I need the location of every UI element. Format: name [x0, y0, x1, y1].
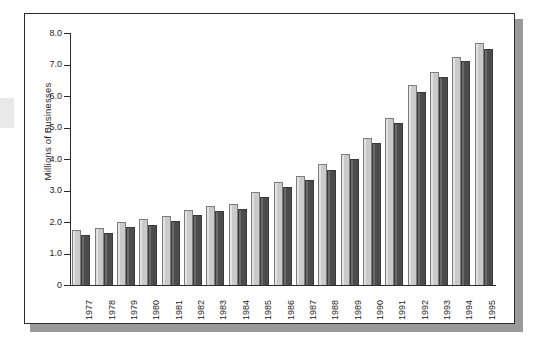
bar-1991-series-1 — [385, 118, 394, 285]
bar-1982-series-2 — [193, 215, 202, 285]
bar-group — [95, 33, 113, 285]
bar-group — [341, 33, 359, 285]
x-axis-tick-label-1980: 1980 — [152, 300, 161, 320]
bar-group — [251, 33, 269, 285]
left-edge-artifact — [0, 98, 14, 128]
bar-1991-series-2 — [394, 123, 403, 285]
y-axis-tick-label: 8.0 — [26, 29, 62, 38]
x-axis-line — [70, 285, 496, 286]
y-axis-tick-label: 1.0 — [26, 249, 62, 258]
bar-group — [475, 33, 493, 285]
x-axis-tick-label-1989: 1989 — [354, 300, 363, 320]
x-axis-tick-label-1985: 1985 — [264, 300, 273, 320]
bar-1988-series-2 — [327, 170, 336, 285]
x-axis-tick-label-1978: 1978 — [108, 300, 117, 320]
bar-1987-series-1 — [296, 176, 305, 285]
bar-1982-series-1 — [184, 210, 193, 285]
bar-1985-series-1 — [251, 192, 260, 285]
bar-1984-series-2 — [238, 209, 247, 285]
bar-1984-series-1 — [229, 204, 238, 285]
bar-1980-series-1 — [139, 219, 148, 285]
bar-1994-series-1 — [452, 57, 461, 285]
y-axis-tick-label: 6.0 — [26, 92, 62, 101]
bar-1980-series-2 — [148, 225, 157, 285]
bar-group — [296, 33, 314, 285]
x-axis-tick-label-1991: 1991 — [398, 300, 407, 320]
bar-1977-series-1 — [72, 230, 81, 285]
x-axis-tick-label-1981: 1981 — [175, 300, 184, 320]
bar-1989-series-2 — [350, 159, 359, 285]
x-axis-tick-labels: 1977197819791980198119821983198419851986… — [70, 288, 496, 324]
x-axis-tick-label-1995: 1995 — [488, 300, 497, 320]
y-axis-tick-label: 3.0 — [26, 186, 62, 195]
bar-1977-series-2 — [81, 235, 90, 285]
x-axis-tick-label-1979: 1979 — [130, 300, 139, 320]
plot-area — [70, 33, 495, 285]
x-axis-tick-label-1983: 1983 — [219, 300, 228, 320]
bar-1981-series-2 — [171, 221, 180, 285]
x-axis-tick-label-1986: 1986 — [287, 300, 296, 320]
bar-1993-series-1 — [430, 72, 439, 285]
bar-group — [72, 33, 90, 285]
bar-group — [430, 33, 448, 285]
x-axis-tick-label-1993: 1993 — [443, 300, 452, 320]
bar-1987-series-2 — [305, 180, 314, 285]
y-axis-tick-label: 0 — [26, 281, 62, 290]
y-axis-tick-label: 2.0 — [26, 218, 62, 227]
bar-1985-series-2 — [260, 197, 269, 286]
x-axis-tick-label-1990: 1990 — [376, 300, 385, 320]
bar-group — [274, 33, 292, 285]
bar-group — [318, 33, 336, 285]
bar-group — [452, 33, 470, 285]
x-axis-tick-label-1992: 1992 — [421, 300, 430, 320]
bar-group — [385, 33, 403, 285]
bar-group — [408, 33, 426, 285]
bar-1981-series-1 — [162, 216, 171, 285]
x-axis-tick-label-1982: 1982 — [197, 300, 206, 320]
bar-1983-series-2 — [215, 211, 224, 285]
x-axis-tick-label-1984: 1984 — [242, 300, 251, 320]
bar-group — [162, 33, 180, 285]
bar-1986-series-2 — [283, 187, 292, 285]
bar-1992-series-2 — [417, 92, 426, 285]
bar-1995-series-1 — [475, 43, 484, 285]
x-axis-tick-label-1987: 1987 — [309, 300, 318, 320]
bar-group — [229, 33, 247, 285]
bar-1990-series-2 — [372, 143, 381, 285]
bar-1986-series-1 — [274, 182, 283, 285]
bar-1978-series-2 — [104, 233, 113, 285]
bar-1992-series-1 — [408, 85, 417, 285]
x-axis-tick-label-1988: 1988 — [331, 300, 340, 320]
bar-group — [363, 33, 381, 285]
y-axis-tick-label: 4.0 — [26, 155, 62, 164]
bar-group — [184, 33, 202, 285]
y-axis-tick-label: 5.0 — [26, 123, 62, 132]
bar-1990-series-1 — [363, 138, 372, 285]
y-axis-tick-label: 7.0 — [26, 60, 62, 69]
bar-group — [139, 33, 157, 285]
bar-1978-series-1 — [95, 228, 104, 285]
bar-group — [117, 33, 135, 285]
bar-1979-series-1 — [117, 222, 126, 285]
bar-1995-series-2 — [484, 49, 493, 285]
bar-1988-series-1 — [318, 164, 327, 285]
bar-group — [206, 33, 224, 285]
y-axis-tick-labels: 8.07.06.05.04.03.02.01.00 — [25, 14, 62, 325]
bar-1994-series-2 — [461, 61, 470, 285]
x-axis-tick-label-1994: 1994 — [465, 300, 474, 320]
bar-1979-series-2 — [126, 227, 135, 285]
chart-figure-frame: Millions of Businesses 8.07.06.05.04.03.… — [24, 13, 515, 324]
bar-1983-series-1 — [206, 206, 215, 285]
x-axis-tick-label-1977: 1977 — [85, 300, 94, 320]
bar-1989-series-1 — [341, 154, 350, 285]
bar-1993-series-2 — [439, 77, 448, 285]
